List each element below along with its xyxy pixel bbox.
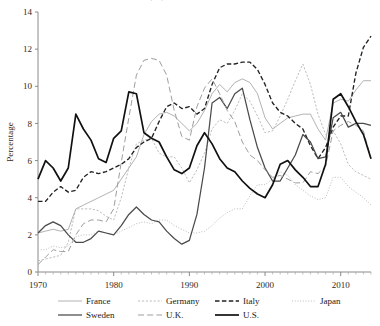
y-tick-label: 10 [23, 81, 33, 91]
legend-label-us: U.S. [243, 310, 259, 320]
y-tick-label: 4 [28, 193, 33, 203]
y-tick-label: 2 [28, 230, 33, 240]
series-line-sweden [38, 88, 371, 244]
legend-label-sweden: Sweden [86, 310, 115, 320]
x-tick-label: 2010 [332, 280, 351, 290]
y-tick-label: 12 [23, 44, 32, 54]
legend-label-italy: Italy [243, 296, 260, 306]
figure-container: · · 0246810121419701980199020002010Perce… [0, 0, 380, 326]
legend-label-uk: U.K. [166, 310, 184, 320]
y-axis-label: Percentage [5, 122, 15, 161]
y-tick-label: 0 [28, 267, 33, 277]
series-line-uk [38, 58, 371, 264]
legend-label-japan: Japan [320, 296, 341, 306]
x-tick-label: 1970 [29, 280, 48, 290]
y-tick-label: 6 [28, 156, 33, 166]
x-tick-label: 1990 [180, 280, 199, 290]
y-tick-label: 14 [23, 7, 33, 17]
series-line-japan [38, 172, 371, 250]
x-tick-label: 2000 [256, 280, 275, 290]
y-tick-label: 8 [28, 119, 33, 129]
series-line-france [38, 79, 371, 233]
x-tick-label: 1980 [105, 280, 124, 290]
legend-label-france: France [86, 296, 111, 306]
legend-label-germany: Germany [166, 296, 200, 306]
line-chart: 0246810121419701980199020002010Percentag… [0, 0, 380, 326]
